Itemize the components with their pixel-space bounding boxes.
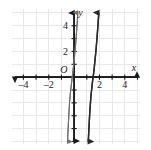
x-tick-label-0: –4	[17, 79, 28, 90]
x-tick-label-2: 2	[97, 79, 102, 90]
origin-label: O	[60, 64, 67, 75]
x-tick-label-1: –2	[43, 79, 54, 90]
x-axis-name: x	[131, 62, 137, 73]
coordinate-plane: –4–22424Oxy	[0, 0, 151, 150]
figure-background	[0, 0, 151, 150]
graph-figure: –4–22424Oxy	[0, 0, 151, 150]
x-tick-label-3: 4	[122, 79, 127, 90]
y-tick-label-1: 4	[63, 20, 68, 31]
y-axis-name: y	[77, 7, 83, 18]
y-tick-label-0: 2	[63, 46, 68, 57]
